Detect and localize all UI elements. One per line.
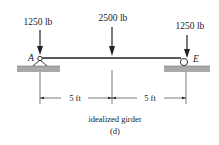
load-arrow-middle-icon [109,27,115,56]
dimension-lines [40,70,186,104]
support-label-a: A [27,53,34,63]
load-arrow-right-icon [184,35,190,58]
load-arrow-left-icon [37,30,43,55]
load-label-middle: 2500 lb [99,13,128,23]
dimension-label-left: 5 ft [69,93,81,103]
ground-right [164,66,210,72]
support-label-e: E [192,54,199,64]
dimension-label-right: 5 ft [144,93,156,103]
girder-diagram: 1250 lb 2500 lb 1250 lb A E 5 ft 5 ft id… [0,0,219,145]
load-label-right: 1250 lb [176,21,205,31]
caption: idealized girder [88,114,141,124]
subcaption: (d) [110,126,120,136]
roller-support-icon [180,58,187,65]
load-label-left: 1250 lb [24,17,53,27]
ground-left [17,66,60,72]
